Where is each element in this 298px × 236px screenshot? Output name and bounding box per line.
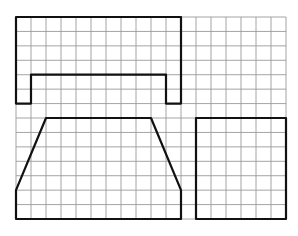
grid-diagram — [0, 0, 298, 236]
trapezoid-pentagon-shape — [16, 118, 181, 219]
